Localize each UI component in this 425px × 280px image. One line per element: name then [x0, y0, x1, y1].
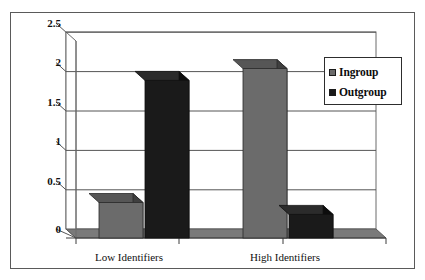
x-tick-high-identifiers: High Identifiers	[233, 251, 337, 263]
legend-item-outgroup[interactable]: Outgroup	[329, 82, 398, 102]
bar-front-face	[289, 214, 333, 238]
bar-front-face	[145, 80, 189, 238]
square-swatch-icon	[329, 89, 336, 96]
x-axis-ticks	[76, 238, 386, 244]
bar-front-face	[99, 203, 143, 239]
y-tick-0_5: 0.5	[47, 176, 61, 187]
square-swatch-icon	[329, 69, 336, 76]
legend-item-ingroup[interactable]: Ingroup	[329, 62, 398, 82]
legend-label-ingroup: Ingroup	[339, 66, 378, 78]
chart-figure-frame: 2.5 2 1.5 1 0.5 0 Low Identifiers High I…	[10, 12, 415, 269]
y-tick-2_5: 2.5	[47, 18, 61, 29]
chart-svg	[11, 13, 416, 270]
y-tick-1: 1	[56, 136, 62, 147]
y-axis-tick-labels: 2.5 2 1.5 1 0.5 0	[25, 13, 61, 270]
plot-left-wall	[66, 32, 76, 238]
plot-area	[11, 13, 416, 270]
y-tick-2: 2	[56, 57, 62, 68]
legend-label-outgroup: Outgroup	[339, 86, 387, 98]
bar-front-face	[243, 69, 287, 238]
y-tick-0: 0	[56, 224, 62, 235]
chart-legend: Ingroup Outgroup	[324, 57, 402, 105]
x-tick-low-identifiers: Low Identifiers	[77, 251, 181, 263]
y-tick-1_5: 1.5	[47, 97, 61, 108]
